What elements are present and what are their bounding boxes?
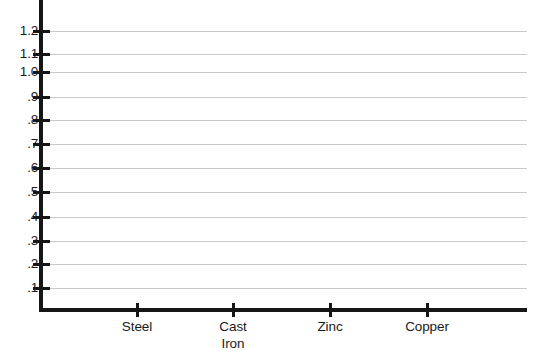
y-tick-label: 1.1 bbox=[20, 47, 38, 61]
y-tick-label: 1.0 bbox=[20, 65, 38, 79]
y-tick-label: 1.2 bbox=[20, 24, 38, 38]
y-tick-label: .1 bbox=[27, 281, 38, 295]
x-tick-mark bbox=[329, 303, 332, 317]
x-tick-mark bbox=[232, 303, 235, 317]
y-tick-label: .2 bbox=[27, 257, 38, 271]
bar-chart: 1.2 1.1 1.0 .9 .8 .7 .6 .5 .4 .3 .2 .1 S… bbox=[0, 0, 535, 358]
plot-area bbox=[41, 0, 527, 308]
x-axis-line bbox=[39, 308, 527, 312]
y-tick-label: .4 bbox=[27, 210, 38, 224]
y-tick-label: .5 bbox=[27, 185, 38, 199]
y-tick-label: .6 bbox=[27, 161, 38, 175]
x-tick-mark bbox=[426, 303, 429, 317]
x-category-label-cast-iron: Cast Iron bbox=[219, 319, 246, 352]
x-category-label-zinc: Zinc bbox=[317, 319, 342, 336]
y-tick-label: .7 bbox=[27, 137, 38, 151]
y-tick-label: .8 bbox=[27, 113, 38, 127]
x-category-label-copper: Copper bbox=[405, 319, 449, 336]
y-tick-label: .3 bbox=[27, 234, 38, 248]
x-tick-mark bbox=[136, 303, 139, 317]
x-category-label-steel: Steel bbox=[122, 319, 152, 336]
y-tick-label: .9 bbox=[27, 90, 38, 104]
